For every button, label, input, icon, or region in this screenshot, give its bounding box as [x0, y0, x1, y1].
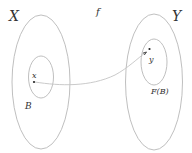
point-x [33, 81, 35, 83]
label-function-f: f [95, 6, 102, 17]
mapping-arrow [35, 53, 145, 85]
label-set-x: X [8, 8, 20, 24]
set-y-ellipse [126, 14, 183, 150]
label-subset-b: B [24, 101, 32, 111]
set-x-ellipse [12, 15, 70, 149]
function-mapping-diagram: X f Y x y B F(B) [0, 0, 192, 153]
label-image-fb: F(B) [150, 87, 169, 96]
point-y [148, 48, 150, 50]
label-point-y: y [148, 55, 154, 64]
label-set-y: Y [172, 8, 183, 24]
image-fb-ellipse [141, 39, 167, 85]
label-point-x: x [32, 71, 37, 80]
